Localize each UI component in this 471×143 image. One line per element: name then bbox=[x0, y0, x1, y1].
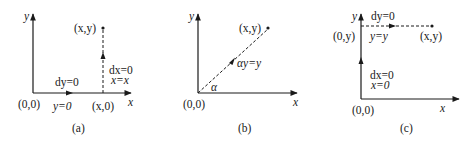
angle-label: α bbox=[211, 81, 218, 93]
panel-a: y x (x,y) (0,0) (x,0) dy=0 y=0 dx=0 x=x … bbox=[18, 10, 134, 135]
point-xy bbox=[430, 24, 433, 27]
path-direction-arrow-icon bbox=[66, 91, 73, 96]
point-label: (x,y) bbox=[74, 22, 96, 35]
origin-label: (0,0) bbox=[18, 98, 40, 111]
point-xy bbox=[266, 26, 269, 29]
foot-point-label: (x,0) bbox=[92, 100, 114, 113]
origin-label: (0,0) bbox=[183, 98, 205, 111]
path-direction-arrow-icon bbox=[229, 58, 235, 66]
origin-label: (0,0) bbox=[352, 104, 374, 117]
foot-point-label: (0,y) bbox=[333, 30, 355, 43]
caption-c: (c) bbox=[400, 122, 413, 135]
path2-label-top: dy=0 bbox=[371, 10, 395, 23]
path-label: αy=y bbox=[237, 57, 262, 70]
path1-label-bottom: y=0 bbox=[52, 100, 72, 113]
point-label: (x,y) bbox=[420, 30, 442, 43]
x-axis-label: x bbox=[127, 96, 134, 108]
panel-b: y x (x,y) (0,0) αy=y α (b) bbox=[183, 10, 299, 135]
panel-c: y x (x,y) (0,y) (0,0) dy=0 y=y dx=0 x=0 … bbox=[333, 10, 459, 135]
path1-label-top: dy=0 bbox=[55, 76, 79, 89]
path-direction-arrow-icon bbox=[101, 52, 106, 59]
point-xy bbox=[101, 26, 104, 29]
y-axis-label: y bbox=[351, 10, 358, 23]
y-axis-label: y bbox=[23, 10, 30, 23]
path2-label-bottom: x=x bbox=[110, 74, 130, 86]
path-direction-arrow-icon bbox=[389, 24, 396, 29]
x-axis-label: x bbox=[439, 102, 446, 114]
x-axis-label: x bbox=[292, 96, 299, 108]
path-direction-arrow-icon bbox=[359, 57, 364, 64]
path1-label-bottom: x=0 bbox=[370, 79, 390, 91]
integration-paths-diagram: y x (x,y) (0,0) (x,0) dy=0 y=0 dx=0 x=x … bbox=[0, 0, 471, 143]
path2-label-bottom: y=y bbox=[369, 30, 389, 43]
caption-b: (b) bbox=[238, 122, 252, 135]
caption-a: (a) bbox=[72, 122, 85, 135]
y-axis-label: y bbox=[188, 10, 195, 23]
point-label: (x,y) bbox=[239, 22, 261, 35]
